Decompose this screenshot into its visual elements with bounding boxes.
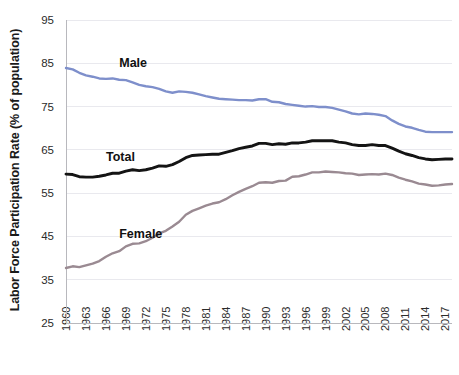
x-axis-tick-label: 1969 — [120, 307, 132, 331]
y-axis-tick-label: 95 — [41, 14, 54, 26]
x-axis-tick-label: 1981 — [200, 307, 212, 331]
x-axis-tick-label: 1987 — [240, 307, 252, 331]
x-axis-tick-label: 2005 — [359, 307, 371, 331]
x-axis-tick-label: 1975 — [160, 307, 172, 331]
series-label-male: Male — [119, 56, 147, 70]
x-axis-tick-label: 1972 — [140, 307, 152, 331]
y-axis-tick-label: 75 — [41, 101, 54, 113]
series-line-male — [66, 68, 452, 132]
series-line-female — [66, 172, 452, 269]
line-chart-plot: 2535455565758595 19601963196619691972197… — [0, 0, 459, 375]
x-axis-tick-label: 2014 — [419, 307, 431, 331]
y-axis-tick-label: 45 — [41, 230, 54, 242]
x-axis-tick-label: 1978 — [180, 307, 192, 331]
x-axis-tick-label: 1990 — [260, 307, 272, 331]
x-axis-tick-label: 1993 — [280, 307, 292, 331]
x-axis-tick-label: 1999 — [320, 307, 332, 331]
x-axis-tick-label: 2008 — [379, 307, 391, 331]
x-axis-tick-label: 2017 — [439, 307, 451, 331]
chart-container: Labor Force Participation Rate (% of pop… — [0, 0, 459, 375]
y-axis-tick-label: 35 — [41, 274, 54, 286]
x-axis-tick-label: 1996 — [300, 307, 312, 331]
x-axis-tick-labels: 1960196319661969197219751978198119841987… — [60, 307, 451, 331]
x-axis-tick-label: 1966 — [100, 307, 112, 331]
x-axis-tick-label: 1963 — [80, 307, 92, 331]
y-axis-tick-label: 25 — [41, 317, 54, 329]
x-axis-tick-label: 2002 — [340, 307, 352, 331]
y-axis-tick-label: 85 — [41, 57, 54, 69]
series-label-total: Total — [106, 150, 135, 164]
y-axis-tick-label: 55 — [41, 187, 54, 199]
x-axis-tick-label: 1984 — [220, 307, 232, 331]
series-label-female: Female — [119, 227, 162, 241]
y-axis-tick-label: 65 — [41, 144, 54, 156]
y-axis-tick-labels: 2535455565758595 — [41, 14, 54, 329]
x-axis-tick-label: 2011 — [399, 307, 411, 331]
